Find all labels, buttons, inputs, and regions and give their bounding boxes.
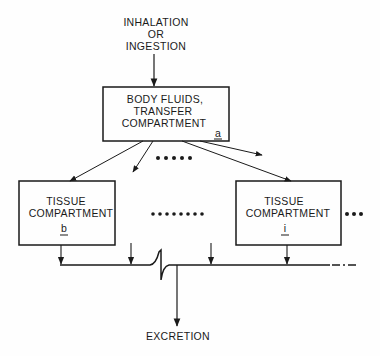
svg-text:INHALATION: INHALATION <box>123 16 188 28</box>
tissue-compartment-b: TISSUE COMPARTMENT b <box>19 181 115 245</box>
svg-text:COMPARTMENT: COMPARTMENT <box>29 207 114 219</box>
compartment-id-a: a <box>215 127 221 139</box>
svg-text:TISSUE: TISSUE <box>264 195 304 207</box>
excretion-collector-line <box>60 250 356 280</box>
compartment-id-i: i <box>284 222 287 234</box>
svg-text:OR: OR <box>148 28 164 40</box>
input-label: INHALATION OR INGESTION <box>123 16 188 52</box>
excretion-label: EXCRETION <box>146 330 210 342</box>
svg-text:TRANSFER: TRANSFER <box>134 105 193 117</box>
svg-text:BODY FLUIDS,: BODY FLUIDS, <box>127 93 203 105</box>
ellipsis-dots-upper <box>156 156 192 160</box>
transfer-outflow-arrows <box>70 141 291 181</box>
svg-text:COMPARTMENT: COMPARTMENT <box>122 117 207 129</box>
tissue-compartment-i: TISSUE COMPARTMENT i <box>236 181 341 245</box>
compartment-model-diagram: INHALATION OR INGESTION BODY FLUIDS, TRA… <box>0 0 380 356</box>
svg-text:INGESTION: INGESTION <box>126 40 186 52</box>
diagram-canvas: INHALATION OR INGESTION BODY FLUIDS, TRA… <box>0 0 380 356</box>
tissue-outflow-arrows <box>61 243 287 264</box>
ellipsis-dots-right <box>345 212 363 216</box>
compartment-id-b: b <box>61 222 67 234</box>
svg-text:COMPARTMENT: COMPARTMENT <box>246 207 331 219</box>
transfer-compartment-box: BODY FLUIDS, TRANSFER COMPARTMENT a <box>103 87 229 141</box>
svg-text:TISSUE: TISSUE <box>46 195 86 207</box>
ellipsis-dots-middle <box>151 212 204 216</box>
